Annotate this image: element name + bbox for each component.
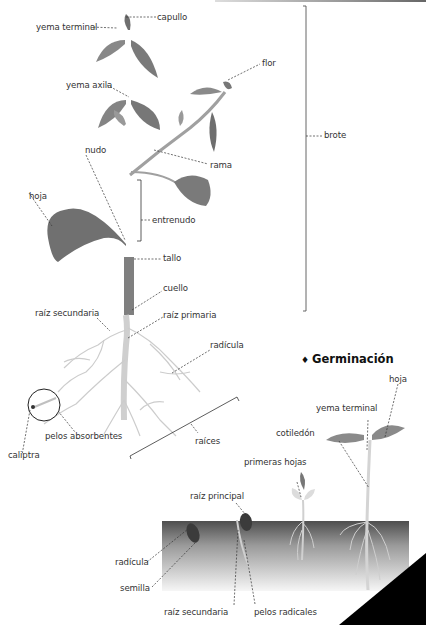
label-tallo: tallo — [163, 253, 181, 263]
label-germ-raiz-secundaria: raíz secundaria — [164, 607, 228, 617]
label-raiz-secundaria: raíz secundaria — [35, 308, 99, 318]
label-germ-hoja: hoja — [389, 374, 407, 384]
soil-cross-section — [162, 521, 409, 591]
main-plant — [28, 6, 306, 459]
label-yema-terminal: yema terminal — [36, 22, 97, 32]
germination-title-text: Germinación — [312, 352, 394, 366]
label-germ-raiz-principal: raíz principal — [190, 491, 244, 501]
label-entrenudo: entrenudo — [152, 215, 195, 225]
label-germ-yema-terminal: yema terminal — [316, 403, 377, 413]
label-germ-pelos-radicales: pelos radicales — [254, 607, 317, 617]
label-cuello: cuello — [163, 283, 188, 293]
label-yema-axila: yema axila — [66, 80, 112, 90]
label-germ-primeras-hojas: primeras hojas — [244, 457, 306, 467]
germination-title: ♦Germinación — [301, 352, 394, 366]
label-flor: flor — [262, 58, 276, 68]
label-germ-cotiledon: cotiledón — [276, 428, 315, 438]
plant-anatomy-diagram: capullo yema terminal flor yema axila br… — [0, 0, 426, 625]
label-raiz-primaria: raíz primaria — [163, 310, 216, 320]
label-germ-semilla: semilla — [120, 583, 150, 593]
label-pelos-absorbentes: pelos absorbentes — [45, 431, 122, 441]
germination-scene — [162, 425, 426, 625]
label-radicula: radícula — [210, 340, 244, 350]
label-caliptra: caliptra — [8, 450, 40, 460]
label-nudo: nudo — [85, 145, 106, 155]
label-raices: raíces — [195, 436, 220, 446]
label-capullo: capullo — [157, 12, 187, 22]
label-brote: brote — [324, 130, 346, 140]
diamond-bullet-icon: ♦ — [301, 355, 309, 365]
label-hoja: hoja — [29, 191, 47, 201]
label-germ-radicula: radícula — [115, 557, 149, 567]
label-rama: rama — [210, 160, 232, 170]
